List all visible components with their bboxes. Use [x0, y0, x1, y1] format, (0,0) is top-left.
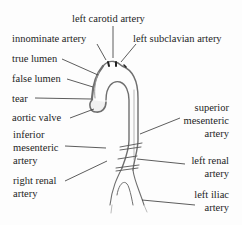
label-inferior-mesenteric-line2: mesenteric	[13, 142, 58, 153]
label-false-lumen: false lumen	[12, 73, 61, 84]
label-right-renal-line1: right renal	[13, 175, 56, 186]
label-left-renal-line1: left renal	[191, 155, 229, 166]
label-left-carotid-artery: left carotid artery	[72, 13, 145, 24]
label-superior-mesenteric-line3: artery	[205, 128, 229, 139]
aorta-vessel	[90, 61, 147, 213]
label-superior-mesenteric-line2: mesenteric	[184, 115, 229, 126]
aorta-diagram: left carotid artery innominate artery le…	[0, 0, 242, 225]
label-inferior-mesenteric-line3: artery	[13, 155, 37, 166]
label-tear: tear	[12, 93, 28, 104]
label-true-lumen: true lumen	[12, 53, 57, 64]
label-aortic-valve: aortic valve	[12, 112, 61, 123]
label-left-subclavian-artery: left subclavian artery	[133, 33, 222, 44]
label-innominate-artery: innominate artery	[12, 33, 86, 44]
label-inferior-mesenteric-line1: inferior	[13, 129, 45, 140]
label-superior-mesenteric-line1: superior	[195, 102, 229, 113]
label-left-renal-line2: artery	[205, 168, 229, 179]
label-left-iliac-line2: artery	[205, 202, 229, 213]
label-right-renal-line2: artery	[13, 188, 37, 199]
label-left-iliac-line1: left iliac	[194, 189, 229, 200]
